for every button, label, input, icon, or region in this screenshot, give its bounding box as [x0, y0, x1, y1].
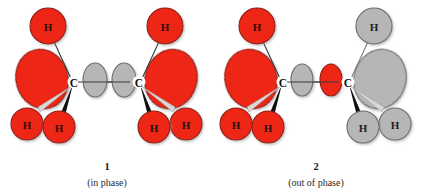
carbon-label: C: [279, 77, 287, 89]
center-lobe-left: [291, 64, 313, 96]
carbon-label: C: [135, 77, 143, 89]
hydrogen-label: H: [161, 21, 170, 33]
hydrogen-label: H: [232, 119, 241, 131]
hydrogen-label: H: [182, 119, 191, 131]
hydrogen-label: H: [253, 21, 262, 33]
hydrogen-label: H: [370, 21, 379, 33]
carbon-label: C: [70, 77, 78, 89]
center-lobe-left: [83, 63, 107, 97]
center-lobe-right: [112, 63, 136, 97]
hydrogen-label: H: [359, 122, 368, 134]
center-lobe-right: [320, 64, 342, 96]
hydrogen-label: H: [264, 122, 273, 134]
hydrogen-label: H: [23, 119, 32, 131]
structure-caption-phase: (in phase): [87, 177, 127, 189]
hydrogen-label: H: [150, 122, 159, 134]
figure-canvas: H H H C H H H C: [0, 0, 425, 193]
hydrogen-label: H: [55, 122, 64, 134]
structure-caption-phase: (out of phase): [288, 177, 344, 189]
structure-caption-number: 1: [104, 161, 109, 172]
carbon-label: C: [344, 77, 352, 89]
hydrogen-label: H: [391, 119, 400, 131]
structure-caption-number: 2: [313, 161, 318, 172]
hydrogen-label: H: [44, 21, 53, 33]
